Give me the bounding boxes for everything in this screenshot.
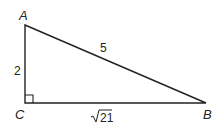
triangle xyxy=(25,25,206,103)
radicand: 21 xyxy=(100,111,114,125)
vertex-label-c: C xyxy=(15,107,25,122)
side-label-cb: 21 xyxy=(91,110,114,125)
right-angle-marker xyxy=(25,95,33,103)
side-label-ab: 5 xyxy=(100,41,107,55)
vertex-label-a: A xyxy=(18,8,28,23)
triangle-diagram: A B C 2 5 21 xyxy=(0,0,222,127)
vertex-label-b: B xyxy=(203,107,212,122)
side-label-ac: 2 xyxy=(14,64,21,78)
